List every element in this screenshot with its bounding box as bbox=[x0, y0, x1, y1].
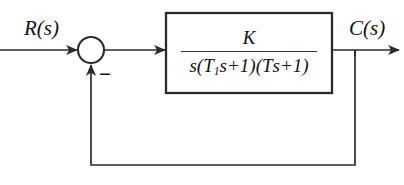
denominator-term-mid: s+1)( bbox=[220, 55, 262, 76]
denominator-term-close: s+1) bbox=[273, 55, 309, 76]
denominator-term-T2: T bbox=[262, 55, 273, 76]
input-signal-label: R(s) bbox=[24, 18, 59, 39]
summing-junction-circle bbox=[78, 37, 104, 63]
output-signal-label: C(s) bbox=[349, 18, 385, 39]
denominator-T1-base: T bbox=[203, 55, 214, 76]
fraction-denominator: s(T1s+1)(Ts+1) bbox=[187, 52, 310, 79]
denominator-term-s-open: s( bbox=[189, 55, 203, 76]
fraction: K s(T1s+1)(Ts+1) bbox=[181, 28, 317, 79]
feedback-sign-label: − bbox=[99, 64, 111, 85]
transfer-function-expression: K s(T1s+1)(Ts+1) bbox=[166, 13, 332, 93]
denominator-term-T1: T1 bbox=[203, 55, 219, 76]
block-diagram-canvas: R(s) C(s) − K s(T1s+1)(Ts+1) bbox=[0, 0, 404, 185]
denominator-T2-base: T bbox=[262, 55, 273, 76]
fraction-numerator: K bbox=[237, 28, 262, 51]
